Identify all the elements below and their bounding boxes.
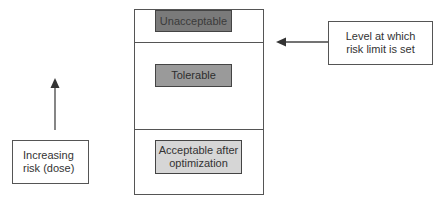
arrows-layer bbox=[0, 0, 437, 203]
left-arrow-icon bbox=[276, 38, 328, 47]
up-arrow-icon bbox=[51, 78, 60, 130]
